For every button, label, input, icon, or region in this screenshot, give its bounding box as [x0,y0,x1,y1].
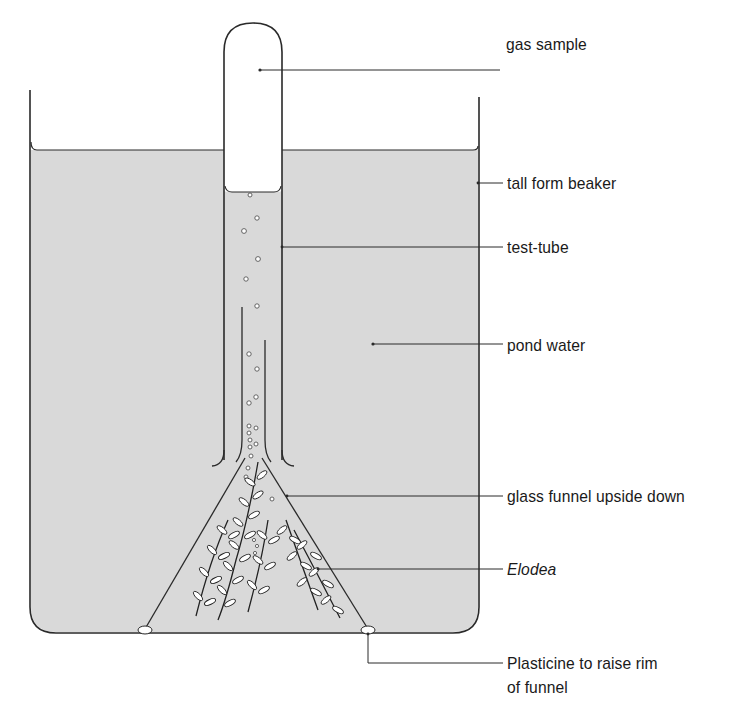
label-tall-form-beaker: tall form beaker [507,171,616,196]
apparatus-diagram [0,0,738,720]
label-plasticine: Plasticine to raise rim [507,651,658,676]
label-plasticine-line2: of funnel [507,675,568,700]
label-pond-water: pond water [507,333,585,358]
label-gas-sample: gas sample [506,32,587,57]
label-elodea: Elodea [507,557,556,582]
label-test-tube: test-tube [507,235,569,260]
label-glass-funnel: glass funnel upside down [507,484,685,509]
